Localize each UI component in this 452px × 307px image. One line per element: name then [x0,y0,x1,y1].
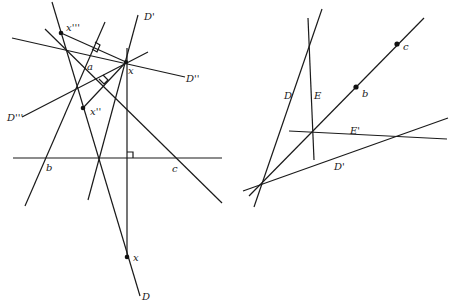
line-D-prime-right [243,118,448,191]
label-a: a [87,61,93,72]
label-b-right: b [362,88,368,99]
label-E: E [313,90,322,101]
label-b: b [46,162,52,173]
point-b [353,84,358,89]
label-x-double: x'' [90,106,101,117]
left-figure: D' x''' a x D'' D''' x'' b c x D [6,2,222,302]
right-figure: D E b c E' D' [243,9,448,207]
segment-x-triple-to-x [61,33,126,62]
line-a-c [45,29,222,203]
label-c-right: c [403,41,409,52]
point-x-main [124,60,128,64]
label-x-main: x [128,65,134,76]
label-D-prime: D' [143,11,155,22]
geometry-figure: D' x''' a x D'' D''' x'' b c x D D E b c… [0,0,452,307]
label-E-prime: E' [349,125,360,136]
label-c: c [172,163,178,174]
point-x-triple [59,31,64,36]
point-x-bottom [125,255,130,260]
label-x-bottom: x [133,252,139,263]
label-D-prime-right: D' [333,161,345,172]
label-D-triple-prime: D''' [6,112,23,123]
label-x-triple: x''' [66,22,80,33]
label-D-double-prime: D'' [185,73,200,84]
point-c [394,41,399,46]
label-D-right: D [283,90,292,101]
label-D: D [141,291,150,302]
right-angle-marker-bottom [127,152,133,158]
point-x-double [81,106,86,111]
